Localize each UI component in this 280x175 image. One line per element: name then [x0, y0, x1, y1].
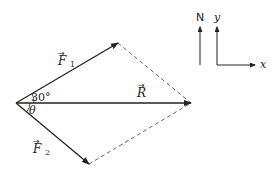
- svg-text:2: 2: [45, 148, 50, 157]
- label-f2: F → 2: [32, 137, 50, 157]
- dashed-side-f1-to-r: [118, 43, 191, 103]
- angle-label-30: 30°: [31, 91, 51, 104]
- x-axis-label: x: [260, 58, 267, 71]
- label-f1: F → 1: [57, 49, 75, 69]
- y-axis-label: y: [213, 11, 221, 24]
- vector-diagram: F → 1 30° θ R → F → 2 N y x: [0, 0, 280, 175]
- angle-label-theta: θ: [29, 104, 36, 117]
- north-label: N: [196, 11, 204, 24]
- label-r: R →: [136, 81, 146, 100]
- svg-text:→: →: [138, 81, 145, 90]
- dashed-side-f2-to-r: [89, 103, 191, 164]
- svg-text:→: →: [58, 49, 65, 58]
- svg-text:→: →: [33, 137, 40, 146]
- svg-text:1: 1: [70, 60, 75, 69]
